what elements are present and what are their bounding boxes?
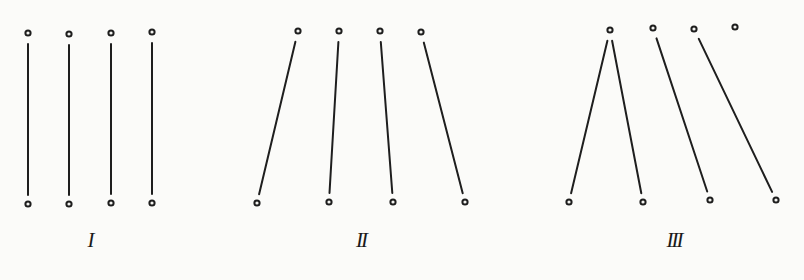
connection-line (381, 42, 393, 193)
top-locus-dot-icon (336, 28, 341, 33)
bottom-locus-dot-icon (390, 199, 395, 204)
top-locus-dot-icon (377, 28, 382, 33)
bottom-locus-dot-icon (773, 197, 778, 202)
bottom-locus-dot-icon (640, 199, 645, 204)
top-locus-dot-icon (25, 30, 30, 35)
top-locus-dot-icon (732, 24, 737, 29)
panel-3 (566, 24, 778, 204)
connection-line (259, 42, 295, 195)
bottom-locus-dot-icon (462, 199, 467, 204)
panel-2-label: II (356, 230, 366, 251)
connection-line (571, 41, 607, 194)
top-locus-dot-icon (149, 29, 154, 34)
panel-1-label: I (88, 230, 93, 251)
bottom-locus-dot-icon (108, 200, 113, 205)
bottom-locus-dot-icon (254, 200, 259, 205)
top-locus-dot-icon (418, 29, 423, 34)
top-locus-dot-icon (650, 25, 655, 30)
connection-line (612, 41, 641, 193)
connection-line (424, 43, 463, 194)
bottom-locus-dot-icon (149, 200, 154, 205)
connection-line (330, 42, 339, 193)
panel-2 (254, 28, 467, 205)
panel-1 (25, 29, 154, 206)
top-locus-dot-icon (66, 31, 71, 36)
bottom-locus-dot-icon (66, 201, 71, 206)
connection-line (657, 38, 708, 191)
bottom-locus-dot-icon (326, 199, 331, 204)
top-locus-dot-icon (691, 26, 696, 31)
top-locus-dot-icon (607, 27, 612, 32)
top-locus-dot-icon (108, 30, 113, 35)
bottom-locus-dot-icon (566, 199, 571, 204)
bottom-locus-dot-icon (25, 201, 30, 206)
top-locus-dot-icon (295, 28, 300, 33)
bottom-locus-dot-icon (707, 197, 712, 202)
panel-3-label: III (667, 230, 682, 251)
connection-line (699, 39, 772, 192)
genetic-linkage-diagram (0, 0, 804, 280)
